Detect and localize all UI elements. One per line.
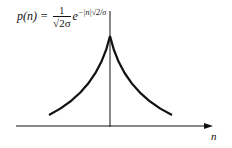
laplacian-plot [0, 0, 232, 148]
x-axis-label: n [211, 130, 217, 142]
x-axis-arrow-icon [204, 123, 213, 129]
